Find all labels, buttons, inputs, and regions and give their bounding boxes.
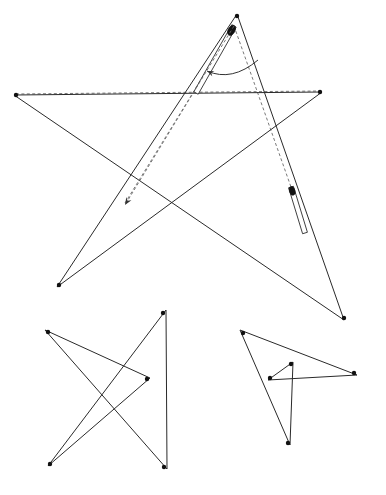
canvas-background	[0, 0, 386, 495]
vertex-dot	[352, 371, 356, 375]
vertex-dot	[318, 90, 322, 94]
vertex-dot	[162, 465, 166, 469]
star-polygon-diagram	[0, 0, 386, 495]
vertex-dot	[235, 14, 239, 18]
vertex-dot	[286, 441, 290, 445]
vertex-dot	[268, 376, 272, 380]
vertex-dot	[289, 362, 293, 366]
vertex-dot	[46, 330, 50, 334]
vertex-dot	[48, 462, 52, 466]
vertex-dot	[14, 93, 18, 97]
figure-canvas	[0, 0, 386, 495]
vertex-dot	[145, 377, 149, 381]
vertex-dot	[57, 283, 61, 287]
vertex-dot	[342, 316, 346, 320]
vertex-dot	[161, 311, 165, 315]
vertex-dot	[241, 331, 245, 335]
